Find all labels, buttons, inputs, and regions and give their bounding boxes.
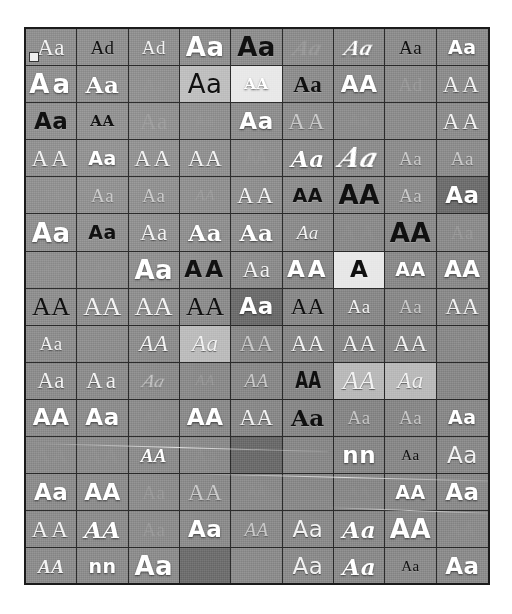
font-preview-cell[interactable]: Aa [334,103,385,140]
font-preview-cell[interactable]: AA [334,363,385,400]
font-preview-cell[interactable]: AA [283,289,334,326]
font-preview-cell[interactable]: AA [231,400,282,437]
font-preview-cell[interactable]: AA [77,511,128,548]
font-preview-cell[interactable]: AA [26,177,77,214]
font-preview-cell[interactable]: Aa [231,252,282,289]
font-preview-cell[interactable]: AA [334,177,385,214]
font-preview-cell[interactable]: AA [231,140,282,177]
font-preview-cell[interactable]: AA [385,252,436,289]
font-preview-cell[interactable]: Aa [283,66,334,103]
font-preview-cell[interactable]: AA [77,289,128,326]
font-preview-cell[interactable]: A [334,252,385,289]
font-preview-cell[interactable]: AA [26,289,77,326]
font-preview-cell[interactable]: Ad [385,66,436,103]
font-preview-cell[interactable]: Aa [26,214,77,251]
font-preview-cell[interactable]: Aa [129,548,180,585]
font-preview-cell[interactable]: AA [77,103,128,140]
font-preview-cell[interactable]: AA [283,363,334,400]
font-preview-cell[interactable]: AA [129,140,180,177]
font-preview-cell[interactable]: Aa [334,548,385,585]
font-preview-cell[interactable]: Aa [385,548,436,585]
font-preview-cell[interactable]: AA [129,437,180,474]
font-preview-cell[interactable]: Aa [77,66,128,103]
font-preview-cell[interactable] [283,474,334,511]
font-preview-cell[interactable]: Aa [231,214,282,251]
font-preview-cell[interactable]: Aa [231,103,282,140]
font-preview-cell[interactable]: nn [334,437,385,474]
font-preview-cell[interactable]: Aa [129,363,180,400]
font-preview-cell[interactable]: Aa [385,289,436,326]
font-preview-cell[interactable]: AA [77,437,128,474]
font-preview-cell[interactable] [180,548,231,585]
font-preview-cell[interactable]: Aa [385,29,436,66]
font-preview-cell[interactable]: Aa [129,66,180,103]
font-preview-cell[interactable]: Aa [334,511,385,548]
font-preview-cell[interactable]: Aa [437,29,488,66]
font-preview-cell[interactable]: Aa [334,400,385,437]
font-preview-cell[interactable]: AA [231,511,282,548]
font-preview-cell[interactable] [231,437,282,474]
font-preview-cell[interactable]: Aa [180,214,231,251]
font-preview-cell[interactable]: Aa [77,214,128,251]
font-preview-cell[interactable]: Aa [437,140,488,177]
font-preview-cell[interactable]: Aa [26,103,77,140]
font-preview-cell[interactable]: Aa [334,289,385,326]
font-preview-cell[interactable]: AA [283,326,334,363]
font-preview-panel[interactable]: AaAdAdAaAaAaAaAaAaAaAaAaAaAAAaAAAdAAAaAA… [24,27,490,585]
font-preview-cell[interactable]: AA [231,177,282,214]
font-preview-cell[interactable]: AA [283,177,334,214]
font-preview-cell[interactable]: Aa [129,103,180,140]
font-preview-cell[interactable]: Aa [283,140,334,177]
font-preview-cell[interactable]: Aa [437,548,488,585]
font-preview-cell[interactable]: Aa [437,400,488,437]
font-preview-cell[interactable]: AA [437,252,488,289]
font-preview-cell[interactable]: AA [385,326,436,363]
font-preview-cell[interactable]: Aa [231,29,282,66]
font-preview-cell[interactable]: AA [231,363,282,400]
font-preview-cell[interactable]: AA [334,66,385,103]
font-preview-cell[interactable]: nn [77,548,128,585]
font-preview-cell[interactable]: AA [26,437,77,474]
font-preview-cell[interactable]: Aa [385,140,436,177]
font-preview-cell[interactable]: AA [231,326,282,363]
font-preview-cell[interactable] [385,103,436,140]
font-preview-cell[interactable]: Aa [180,326,231,363]
font-preview-cell[interactable]: Aa [77,400,128,437]
font-preview-cell[interactable]: AA [283,252,334,289]
font-preview-cell[interactable]: AA [180,177,231,214]
font-preview-cell[interactable]: AA [334,474,385,511]
font-preview-cell[interactable]: AA [231,66,282,103]
font-preview-cell[interactable]: Aa [180,437,231,474]
font-preview-cell[interactable]: Aa [180,103,231,140]
font-preview-cell[interactable]: AA [180,289,231,326]
font-preview-cell[interactable]: AA [26,548,77,585]
font-preview-cell[interactable]: Aa [180,29,231,66]
font-preview-cell[interactable]: Aa [385,437,436,474]
font-preview-cell[interactable]: Aa [26,326,77,363]
font-preview-cell[interactable]: Aa [26,66,77,103]
font-preview-cell[interactable]: AA [180,474,231,511]
font-preview-cell[interactable]: Aa [283,214,334,251]
font-preview-cell[interactable]: Aa [283,400,334,437]
font-preview-cell[interactable]: AA [231,474,282,511]
font-preview-cell[interactable]: Aa [385,363,436,400]
font-preview-cell[interactable]: Aa [77,252,128,289]
font-preview-cell[interactable]: AA [180,363,231,400]
font-preview-cell[interactable]: Aa [385,400,436,437]
font-preview-cell[interactable]: Aa [437,326,488,363]
font-preview-cell[interactable]: AA [77,474,128,511]
font-preview-cell[interactable]: Aa [283,511,334,548]
font-preview-cell[interactable]: AA [26,140,77,177]
font-preview-cell[interactable]: Aa [129,511,180,548]
font-preview-cell[interactable] [231,548,282,585]
font-preview-cell[interactable]: AA [26,400,77,437]
font-preview-cell[interactable]: AA [334,326,385,363]
font-preview-cell[interactable]: AA [26,511,77,548]
font-preview-cell[interactable]: Aa [129,474,180,511]
font-preview-cell[interactable]: Ad [26,252,77,289]
font-preview-cell[interactable]: Aa [385,177,436,214]
font-preview-cell[interactable]: Aa [231,289,282,326]
font-preview-cell[interactable]: Aa [437,437,488,474]
font-preview-cell[interactable] [437,363,488,400]
font-preview-cell[interactable]: Aa [129,177,180,214]
